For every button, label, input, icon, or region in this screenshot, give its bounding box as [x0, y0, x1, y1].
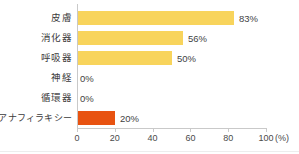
axis-tick-label: 40 — [148, 133, 158, 143]
bar-value-label: 0% — [80, 71, 94, 85]
bar — [77, 31, 183, 45]
chart-row: 神経 0% — [0, 68, 299, 88]
axis-tick-label: 100 — [258, 133, 273, 143]
category-label: 消化器 — [41, 28, 72, 48]
axis-tick-label: 60 — [185, 133, 195, 143]
bar-value-label: 50% — [177, 51, 196, 65]
bar-value-label: 56% — [188, 31, 207, 45]
category-label: 神経 — [51, 68, 72, 88]
bar-value-label: 83% — [239, 11, 258, 25]
bar-value-label: 0% — [80, 91, 94, 105]
bar-track: 50% — [77, 51, 299, 65]
axis-tick-label: 80 — [223, 133, 233, 143]
axis-tick — [115, 128, 116, 132]
bar-track: 0% — [77, 71, 299, 85]
category-label: 皮膚 — [51, 8, 72, 28]
axis-tick — [228, 128, 229, 132]
axis-tick — [153, 128, 154, 132]
bar-value-label: 20% — [120, 111, 139, 125]
bar — [77, 11, 234, 25]
category-label: アナフィラキシー — [0, 108, 72, 128]
category-axis-line — [77, 4, 78, 128]
chart-row: 循環器 0% — [0, 88, 299, 108]
axis-tick — [77, 128, 78, 132]
value-axis-line — [77, 128, 267, 129]
axis-tick-label: 0 — [74, 133, 79, 143]
bar-chart: 皮膚 83% 消化器 56% 呼吸器 50% 神経 0% 循環器 0 — [0, 0, 299, 154]
chart-row: アナフィラキシー 20% — [0, 108, 299, 128]
bar — [77, 111, 115, 125]
bottom-divider — [0, 151, 299, 152]
axis-unit-label: (%) — [275, 133, 289, 143]
bar-track: 0% — [77, 91, 299, 105]
axis-tick — [266, 128, 267, 132]
bar-track: 56% — [77, 31, 299, 45]
axis-tick-label: 20 — [110, 133, 120, 143]
chart-row: 皮膚 83% — [0, 8, 299, 28]
axis-tick — [190, 128, 191, 132]
chart-row: 消化器 56% — [0, 28, 299, 48]
category-label: 呼吸器 — [41, 48, 72, 68]
chart-row: 呼吸器 50% — [0, 48, 299, 68]
bar — [77, 51, 172, 65]
category-label: 循環器 — [41, 88, 72, 108]
bar-track: 83% — [77, 11, 299, 25]
bar-track: 20% — [77, 111, 299, 125]
